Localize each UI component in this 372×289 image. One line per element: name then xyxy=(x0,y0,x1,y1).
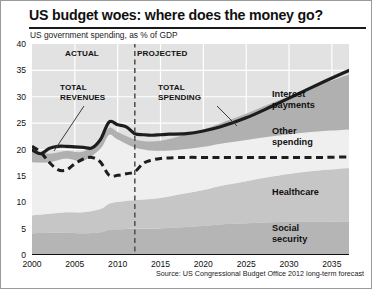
band-label-other-spending: Other spending xyxy=(272,126,313,148)
band-label-social-line1: Social xyxy=(272,223,307,234)
y-tick-40: 40 xyxy=(4,39,26,49)
y-tick-25: 25 xyxy=(4,118,26,128)
y-tick-35: 35 xyxy=(4,65,26,75)
x-tick-2000: 2000 xyxy=(12,259,52,269)
annotation-total-spending-line2: SPENDING xyxy=(158,93,201,103)
band-label-healthcare: Healthcare xyxy=(272,187,319,198)
annotation-actual: ACTUAL xyxy=(65,49,99,59)
x-tick-2035: 2035 xyxy=(312,259,352,269)
y-tick-30: 30 xyxy=(4,92,26,102)
chart-figure: US budget woes: where does the money go?… xyxy=(0,0,372,289)
annotation-total-spending: TOTAL SPENDING xyxy=(158,83,201,103)
x-tick-2030: 2030 xyxy=(269,259,309,269)
x-tick-2005: 2005 xyxy=(55,259,95,269)
annotation-projected: PROJECTED xyxy=(137,49,187,59)
x-tick-2020: 2020 xyxy=(183,259,223,269)
band-label-other-line2: spending xyxy=(272,137,313,148)
y-tick-15: 15 xyxy=(4,171,26,181)
band-label-interest-line2: payments xyxy=(272,100,315,111)
band-label-interest-line1: Interest xyxy=(272,89,315,100)
annotation-total-spending-line1: TOTAL xyxy=(158,83,201,93)
chart-subtitle: US government spending, as % of GDP xyxy=(30,30,178,40)
y-tick-20: 20 xyxy=(4,145,26,155)
x-tick-2025: 2025 xyxy=(226,259,266,269)
annotation-total-revenues-line1: TOTAL xyxy=(60,83,105,93)
band-label-interest-payments: Interest payments xyxy=(272,89,315,111)
y-tick-5: 5 xyxy=(4,224,26,234)
band-label-social-security: Social security xyxy=(272,223,307,245)
annotation-total-revenues-line2: REVENUES xyxy=(60,93,105,103)
band-label-other-line1: Other xyxy=(272,126,313,137)
x-tick-2010: 2010 xyxy=(98,259,138,269)
band-label-social-line2: security xyxy=(272,234,307,245)
source-note: Source: US Congressional Budget Office 2… xyxy=(156,269,364,278)
title-divider xyxy=(29,27,366,29)
page-title: US budget woes: where does the money go? xyxy=(29,7,365,23)
x-tick-2015: 2015 xyxy=(141,259,181,269)
y-tick-10: 10 xyxy=(4,197,26,207)
annotation-total-revenues: TOTAL REVENUES xyxy=(60,83,105,103)
